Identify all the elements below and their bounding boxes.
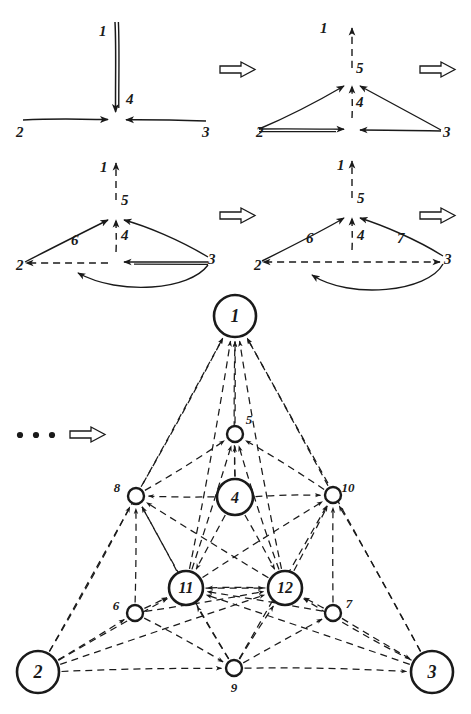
graph-node-label-8: 8 (114, 480, 121, 495)
final-edge-7-to-12 (304, 598, 324, 608)
panel-node-label-5: 5 (121, 192, 129, 208)
graph-node-label-1: 1 (231, 306, 240, 326)
panel-node-label-3: 3 (201, 124, 210, 140)
panel-node-label-6: 6 (71, 232, 79, 248)
final-edge-3-to-12 (304, 599, 412, 661)
final-edge-8-to-1 (141, 338, 223, 487)
panel-node-label-4: 4 (120, 227, 129, 243)
transition-arrow-group (70, 62, 455, 442)
ellipsis-dot (33, 432, 39, 438)
graph-node-label-6: 6 (113, 598, 120, 613)
double-arrow-outline (420, 62, 455, 77)
final-edge-6-to-9 (144, 618, 223, 662)
edge-1-to-4-second-stroke (118, 22, 119, 108)
panel-node-label-4: 4 (356, 227, 365, 243)
graph-node-label-7: 7 (346, 596, 353, 611)
graph-node-label-9: 9 (231, 680, 238, 695)
final-edge-2-to-9 (62, 668, 222, 671)
final-edge-9-to-12 (240, 606, 274, 659)
panel-node-label-1: 1 (100, 159, 108, 175)
graph-node-9[interactable] (226, 660, 242, 676)
graph-node-label-11: 11 (178, 579, 193, 596)
graph-node-label-5: 5 (246, 412, 253, 427)
panel-1-drawing (23, 22, 206, 121)
final-edge-4-to-10 (256, 495, 321, 497)
edge-3-to-5 (124, 220, 208, 257)
hand-drawn-diagram: 123411125810679 1423154231546231546723 (0, 0, 471, 714)
edge-3-to-4 (126, 120, 206, 121)
double-arrow-outline (420, 208, 455, 223)
panel-node-label-1: 1 (320, 20, 328, 36)
arrow-row2-mid (220, 208, 255, 223)
graph-node-7[interactable] (325, 605, 341, 621)
final-edge-4-to-8 (149, 496, 215, 497)
panel-node-label-3: 3 (443, 251, 452, 267)
final-edge-12-to-8 (147, 503, 269, 578)
final-edge-6-to-11 (144, 598, 166, 609)
panel-node-label-5: 5 (357, 190, 365, 206)
graph-node-label-4: 4 (230, 489, 239, 506)
final-edge-4-to-12 (245, 515, 275, 569)
arrow-row2-end (420, 208, 455, 223)
edge-2-to-5 (262, 218, 344, 261)
panel-node-label-3: 3 (442, 124, 451, 140)
edge-2-to-5 (259, 86, 344, 129)
ellipsis-group (17, 432, 55, 438)
final-edge-12-to-1 (240, 341, 282, 569)
panel-node-label-6: 6 (306, 230, 314, 246)
graph-node-5[interactable] (227, 426, 243, 442)
ellipsis-dot (49, 432, 55, 438)
graph-node-label-12: 12 (277, 579, 293, 596)
panel-node-label-4: 4 (355, 94, 364, 110)
graph-node-label-2: 2 (33, 662, 43, 682)
final-edge-11-to-10 (203, 502, 323, 578)
final-edge-3-to-11 (206, 595, 409, 665)
edge-2-to-4 (23, 119, 108, 120)
edge-3-to-4 (360, 130, 441, 131)
panel-2-drawing (259, 28, 441, 132)
final-edge-9-to-7 (243, 619, 322, 663)
edge-3-to-6-curved (78, 265, 208, 287)
final-edge-6-to-8 (135, 509, 136, 603)
edge-3-to-5 (360, 86, 441, 130)
edge-2-to-5 (25, 220, 108, 262)
arrow-row1-mid (220, 62, 255, 77)
final-edge-9-to-3 (245, 668, 407, 672)
panel-node-label-3: 3 (207, 251, 216, 267)
panel-node-label-2: 2 (15, 124, 24, 140)
final-edge-9-to-11 (197, 606, 229, 659)
panel-node-label-5: 5 (356, 60, 364, 76)
panel-3-drawing (25, 163, 208, 287)
final-edge-7-to-3 (342, 618, 410, 659)
graph-node-8[interactable] (128, 488, 144, 504)
panel-node-label-7: 7 (397, 230, 405, 246)
figure-canvas: 123411125810679 1423154231546231546723 (0, 0, 471, 714)
graph-node-label-3: 3 (427, 662, 437, 682)
double-arrow-outline (220, 208, 255, 223)
edge-1-to-4 (115, 22, 116, 112)
panel-node-label-1: 1 (337, 157, 345, 173)
final-edge-11-to-1 (190, 341, 231, 569)
panel-node-label-2: 2 (253, 257, 262, 273)
graph-node-label-10: 10 (342, 480, 356, 495)
final-edge-10-to-5 (246, 441, 325, 490)
panel-node-label-4: 4 (125, 91, 134, 107)
graph-node-10[interactable] (325, 487, 341, 503)
final-edge-10-to-1 (247, 338, 328, 485)
final-edge-2-to-12 (60, 595, 264, 665)
panel-node-label-2: 2 (15, 257, 24, 273)
double-arrow-outline (70, 427, 105, 442)
panel-node-label-1: 1 (99, 23, 107, 39)
arrow-row1-end (420, 62, 455, 77)
ellipsis-dot (17, 432, 23, 438)
arrow-final (70, 427, 105, 442)
final-edge-3-to-10 (339, 506, 420, 652)
graph-node-6[interactable] (127, 605, 143, 621)
panel-label-group: 1423154231546231546723 (15, 20, 452, 273)
edge-3-to-6-curved (312, 264, 443, 290)
final-edge-2-to-6 (58, 620, 124, 660)
double-arrow-outline (220, 62, 255, 77)
panel-node-label-2: 2 (255, 124, 264, 140)
panel-4-drawing (262, 161, 443, 290)
